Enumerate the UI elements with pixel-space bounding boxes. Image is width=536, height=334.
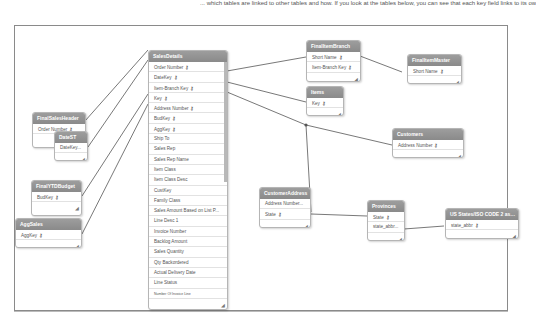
- field-row[interactable]: state_abbr⚷: [446, 220, 518, 230]
- field-row[interactable]: BudKey⚷: [149, 113, 227, 123]
- table-finalitembranch[interactable]: FinalItemBranch Short Name⚷ Item-Branch …: [306, 40, 361, 82]
- field-row[interactable]: Ship To: [149, 134, 227, 144]
- table-finalytdbudget[interactable]: FinalYTDBudget BudKey⚷ ◢: [31, 180, 82, 216]
- field-row[interactable]: Address Number⚷: [149, 103, 227, 113]
- key-icon: ⚷: [164, 95, 168, 101]
- field-row[interactable]: Item-Branch Key⚷: [307, 62, 360, 72]
- field-row[interactable]: Family Class: [149, 196, 227, 206]
- scrollbar[interactable]: [224, 62, 227, 182]
- field-row[interactable]: DateKey⚷: [149, 72, 227, 82]
- key-icon: ⚷: [475, 222, 479, 228]
- table-items[interactable]: Items Key⚷ ◢: [306, 86, 344, 116]
- field-row[interactable]: Backlog Amount: [149, 237, 227, 247]
- key-icon: ⚷: [39, 232, 43, 238]
- resize-handle-icon[interactable]: ◢: [354, 76, 358, 82]
- table-header[interactable]: SalesDetails: [149, 51, 227, 62]
- table-header[interactable]: FinalItemBranch: [307, 41, 360, 52]
- table-usstates[interactable]: US States/ISO CODE 2 assignm state_abbr⚷…: [445, 208, 519, 239]
- key-icon: ⚷: [278, 211, 282, 217]
- table-salesdetails[interactable]: SalesDetails Order Number⚷ DateKey⚷ Item…: [148, 50, 228, 310]
- field-row[interactable]: Key⚷: [149, 93, 227, 103]
- resize-handle-icon[interactable]: ◢: [75, 205, 79, 211]
- resize-handle-icon[interactable]: ◢: [398, 236, 402, 241]
- key-icon: ⚷: [348, 64, 352, 70]
- field-row[interactable]: AggKey⚷: [149, 124, 227, 134]
- table-finalitemmaster[interactable]: FinalItemMaster Short Name⚷ ◢: [407, 54, 462, 84]
- field-row[interactable]: Actual Delivery Date: [149, 268, 227, 278]
- field-row[interactable]: Address Number⚷: [393, 140, 463, 150]
- key-icon: ⚷: [174, 74, 178, 80]
- table-header[interactable]: DateST: [55, 132, 87, 143]
- table-datest[interactable]: DateST DateKey... ◢: [54, 131, 88, 161]
- key-icon: ⚷: [185, 64, 189, 70]
- resize-handle-icon[interactable]: ◢: [81, 156, 85, 161]
- resize-handle-icon[interactable]: ◢: [455, 79, 459, 84]
- key-icon: ⚷: [55, 194, 59, 200]
- field-row[interactable]: Short Name⚷: [307, 52, 360, 62]
- field-row[interactable]: Short Name⚷: [408, 66, 461, 76]
- caption-text: ... which tables are linked to other tab…: [200, 0, 536, 8]
- key-icon: ⚷: [172, 126, 176, 132]
- field-row[interactable]: Sales Quantity: [149, 247, 227, 257]
- table-header[interactable]: CustomerAddress: [260, 188, 310, 199]
- key-icon: ⚷: [440, 68, 444, 74]
- field-row[interactable]: State⚷: [368, 212, 404, 222]
- field-row[interactable]: DateKey...: [55, 143, 87, 153]
- key-icon: ⚷: [339, 54, 343, 60]
- table-header[interactable]: Items: [307, 87, 343, 98]
- resize-handle-icon[interactable]: ◢: [304, 223, 308, 228]
- field-row[interactable]: Item-Branch Key⚷: [149, 83, 227, 93]
- table-header[interactable]: Customers: [393, 129, 463, 140]
- key-icon: ⚷: [190, 85, 194, 91]
- table-customers[interactable]: Customers Address Number⚷ ◢: [392, 128, 464, 158]
- field-row[interactable]: state_abbr...: [368, 222, 404, 232]
- table-header[interactable]: FinalItemMaster: [408, 55, 461, 66]
- resize-handle-icon[interactable]: ◢: [221, 302, 225, 308]
- table-header[interactable]: FinalSalesHeader: [33, 113, 85, 124]
- table-header[interactable]: Provinces: [368, 201, 404, 212]
- field-row[interactable]: Address Number...: [260, 199, 310, 209]
- key-icon: ⚷: [386, 214, 390, 220]
- table-header[interactable]: AggSales: [16, 219, 81, 230]
- resize-handle-icon[interactable]: ◢: [457, 153, 461, 158]
- table-customeraddress[interactable]: CustomerAddress Address Number... State⚷…: [259, 187, 311, 228]
- key-icon: ⚷: [434, 142, 438, 148]
- table-provinces[interactable]: Provinces State⚷ state_abbr... ◢: [367, 200, 405, 241]
- table-aggsales[interactable]: AggSales AggKey⚷ ◢: [15, 218, 82, 248]
- field-row[interactable]: Order Number⚷: [149, 62, 227, 72]
- field-row[interactable]: BudKey⚷: [32, 192, 81, 202]
- resize-handle-icon[interactable]: ◢: [75, 243, 79, 248]
- field-row[interactable]: CustKey: [149, 186, 227, 196]
- field-row[interactable]: Key⚷: [307, 98, 343, 108]
- field-row[interactable]: Item Class: [149, 165, 227, 175]
- table-header[interactable]: US States/ISO CODE 2 assignm: [446, 209, 518, 220]
- field-row[interactable]: Invoice Number: [149, 227, 227, 237]
- field-row[interactable]: Number Of Invoice Line: [149, 289, 227, 299]
- field-row[interactable]: State⚷: [260, 209, 310, 219]
- field-row[interactable]: Line Desc 1: [149, 216, 227, 226]
- resize-handle-icon[interactable]: ◢: [337, 111, 341, 116]
- key-icon: ⚷: [322, 100, 326, 106]
- field-row[interactable]: Sales Amount Based on List P...: [149, 206, 227, 216]
- table-header[interactable]: FinalYTDBudget: [32, 181, 81, 192]
- field-row[interactable]: Qty Backordered: [149, 258, 227, 268]
- field-row[interactable]: Sales Rep: [149, 144, 227, 154]
- field-row[interactable]: Item Class Desc: [149, 175, 227, 185]
- key-icon: ⚷: [172, 115, 176, 121]
- field-row[interactable]: Line Status: [149, 278, 227, 288]
- key-icon: ⚷: [190, 105, 194, 111]
- field-row[interactable]: Sales Rep Name: [149, 155, 227, 165]
- resize-handle-icon[interactable]: ◢: [512, 233, 516, 239]
- field-row[interactable]: AggKey⚷: [16, 230, 81, 240]
